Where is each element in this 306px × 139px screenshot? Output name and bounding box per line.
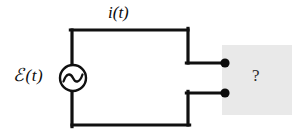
terminal-dot-lower xyxy=(220,88,229,97)
terminal-dot-upper xyxy=(220,58,229,67)
emf-source-label: ℰ(t) xyxy=(13,66,43,84)
circuit-figure: i(t) ℰ(t) ? xyxy=(0,0,306,139)
script-e-symbol: ℰ xyxy=(13,64,26,85)
circuit-diagram-svg xyxy=(0,0,306,139)
unknown-load-question-mark: ? xyxy=(252,67,260,84)
current-label: i(t) xyxy=(108,4,129,21)
emf-argument: (t) xyxy=(26,66,44,85)
